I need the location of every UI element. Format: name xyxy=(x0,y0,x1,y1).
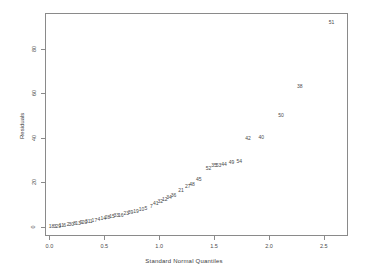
x-axis-tick-label: 0.5 xyxy=(100,243,108,249)
y-axis-tick-label: 60 xyxy=(31,90,37,96)
data-point-label: 38 xyxy=(297,84,303,89)
data-point-label: 50 xyxy=(278,112,284,117)
x-axis-tick-label: 2.5 xyxy=(320,243,328,249)
y-axis-tick-label: 20 xyxy=(31,179,37,185)
x-axis-title: Standard Normal Quantiles xyxy=(0,258,368,264)
data-point-label: 44 xyxy=(221,162,227,167)
y-axis-tick-label: 80 xyxy=(31,46,37,52)
x-axis-tick xyxy=(269,236,270,240)
data-points-layer: 1832911623081392031117414281533162339191… xyxy=(45,13,348,236)
y-axis-tick xyxy=(41,182,45,183)
y-axis-title-wrap: Residuals xyxy=(14,0,24,277)
x-axis-tick-label: 2.0 xyxy=(265,243,273,249)
y-axis-tick xyxy=(41,93,45,94)
x-axis-tick xyxy=(49,236,50,240)
x-axis-tick xyxy=(104,236,105,240)
y-axis-tick xyxy=(41,138,45,139)
data-point-label: 36 xyxy=(171,192,177,197)
x-axis-tick xyxy=(214,236,215,240)
data-point-label: 49 xyxy=(229,160,235,165)
y-axis-title: Residuals xyxy=(19,112,25,138)
y-axis-tick-label: 0 xyxy=(30,226,36,229)
data-point-label: 40 xyxy=(258,134,264,139)
data-point-label: 10 xyxy=(139,207,145,212)
data-point-label: 51 xyxy=(329,20,335,25)
x-axis-tick xyxy=(159,236,160,240)
data-point-label: 48 xyxy=(189,182,195,187)
data-point-label: 21 xyxy=(178,188,184,193)
y-axis-tick-label: 40 xyxy=(31,135,37,141)
data-point-label: 42 xyxy=(245,136,251,141)
qq-plot-figure: 1832911623081392031117414281533162339191… xyxy=(0,0,368,277)
x-axis-tick-label: 1.5 xyxy=(210,243,218,249)
data-point-label: 5 xyxy=(145,206,148,211)
x-axis-tick-label: 1.0 xyxy=(155,243,163,249)
x-axis-tick-label: 0.0 xyxy=(46,243,54,249)
data-point-label: 17 xyxy=(92,217,98,222)
y-axis-tick xyxy=(41,227,45,228)
data-point-label: 45 xyxy=(196,176,202,181)
x-axis-tick xyxy=(324,236,325,240)
y-axis-tick xyxy=(41,49,45,50)
data-point-label: 54 xyxy=(237,159,243,164)
